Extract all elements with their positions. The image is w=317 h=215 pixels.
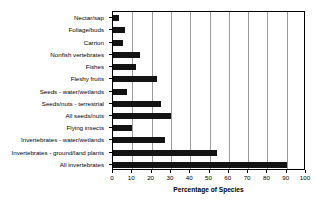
bar-row bbox=[113, 136, 304, 144]
x-axis-tick-label: 50 bbox=[205, 174, 212, 182]
bar bbox=[113, 15, 119, 21]
bars-layer bbox=[113, 12, 304, 169]
bar-row bbox=[113, 39, 304, 47]
bar bbox=[113, 150, 217, 156]
bar-row bbox=[113, 88, 304, 96]
y-axis-labels: Nectar/sapFoliage/budsCarrionNonfish ver… bbox=[0, 11, 109, 170]
y-axis-label: Nonfish vertebrates bbox=[50, 50, 104, 57]
y-axis-label: Nectar/sap bbox=[74, 14, 104, 21]
bar-row bbox=[113, 75, 304, 83]
bar bbox=[113, 89, 127, 95]
y-axis-label: Invertebrates - water/wetlands bbox=[21, 136, 104, 143]
x-axis-tick bbox=[286, 170, 287, 173]
bar-row bbox=[113, 26, 304, 34]
x-axis-tick bbox=[266, 170, 267, 173]
y-axis-label: Seeds - water/wetlands bbox=[40, 87, 104, 94]
bar bbox=[113, 76, 157, 82]
bar bbox=[113, 137, 165, 143]
x-axis-tick-label: 100 bbox=[300, 174, 310, 182]
y-axis-label: Foliage/buds bbox=[69, 26, 104, 33]
y-axis-label: Invertebrates - ground/land plants bbox=[11, 148, 104, 155]
x-axis-tick bbox=[151, 170, 152, 173]
bar-chart: Nectar/sapFoliage/budsCarrionNonfish ver… bbox=[0, 0, 317, 215]
bar bbox=[113, 113, 171, 119]
plot-area bbox=[112, 11, 305, 170]
x-axis-tick-label: 90 bbox=[282, 174, 289, 182]
y-axis-label: Seeds/nuts - terrestrial bbox=[42, 99, 104, 106]
y-axis-label: All seeds/nuts bbox=[65, 111, 104, 118]
x-axis-tick bbox=[305, 170, 306, 173]
x-axis-tick bbox=[131, 170, 132, 173]
bar-row bbox=[113, 124, 304, 132]
x-axis-tick-label: 10 bbox=[128, 174, 135, 182]
x-axis-tick-label: 60 bbox=[224, 174, 231, 182]
x-axis-tick bbox=[228, 170, 229, 173]
bar-row bbox=[113, 63, 304, 71]
y-axis-label: Flying insects bbox=[67, 124, 104, 131]
x-axis-tick-label: 40 bbox=[186, 174, 193, 182]
x-axis-title: Percentage of Species bbox=[112, 186, 305, 193]
bar bbox=[113, 125, 132, 131]
x-axis-tick-label: 0 bbox=[110, 174, 113, 182]
bar bbox=[113, 101, 161, 107]
x-axis-tick-label: 30 bbox=[166, 174, 173, 182]
bar bbox=[113, 40, 123, 46]
bar-row bbox=[113, 51, 304, 59]
x-axis-tick-label: 20 bbox=[147, 174, 154, 182]
bar bbox=[113, 27, 125, 33]
bar-row bbox=[113, 149, 304, 157]
bar-row bbox=[113, 161, 304, 169]
bar bbox=[113, 52, 140, 58]
x-axis-tick-label: 70 bbox=[244, 174, 251, 182]
bar-row bbox=[113, 100, 304, 108]
y-axis-label: Carrion bbox=[84, 38, 104, 45]
x-axis-tick bbox=[112, 170, 113, 173]
x-axis-tick-label: 80 bbox=[263, 174, 270, 182]
y-axis-label: All invertebrates bbox=[60, 160, 104, 167]
y-axis-label: Fishes bbox=[86, 63, 104, 70]
y-axis-label: Fleshy fruits bbox=[71, 75, 104, 82]
x-axis-tick bbox=[209, 170, 210, 173]
bar bbox=[113, 162, 287, 168]
x-axis-tick bbox=[189, 170, 190, 173]
bar bbox=[113, 64, 136, 70]
x-axis-tick bbox=[170, 170, 171, 173]
x-axis-tick bbox=[247, 170, 248, 173]
bar-row bbox=[113, 14, 304, 22]
bar-row bbox=[113, 112, 304, 120]
